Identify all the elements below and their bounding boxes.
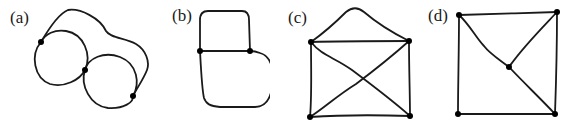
graph-d-left-edge [458, 15, 459, 114]
graph-c-vertex-top-left [308, 39, 314, 45]
graph-a-vertex-3 [130, 93, 136, 99]
graph-b-vertex-2 [247, 48, 253, 54]
graph-c-vertex-top-right [406, 38, 412, 44]
graph-c-top-arc [311, 8, 409, 42]
graph-b-vertex-1 [197, 48, 203, 54]
panel-a: (a) [0, 0, 150, 124]
graph-b-top-face [200, 11, 250, 51]
graph-d-vertex-top-left [456, 12, 462, 18]
graph-c-diagonal-2 [310, 41, 409, 117]
graph-c [280, 0, 425, 124]
graph-a-right-loop [84, 55, 137, 108]
panel-c: (c) [280, 0, 425, 124]
graph-d-edge-center-bottomright [509, 67, 555, 114]
graph-c-left-edge [310, 42, 311, 117]
graph-d-edge-center-topleft [459, 15, 509, 67]
graph-d [420, 0, 562, 124]
graph-a-vertex-2 [82, 67, 88, 73]
graph-d-top-edge [459, 12, 557, 15]
panel-b: (b) [150, 0, 270, 124]
panel-d: (d) [420, 0, 562, 124]
graph-d-edge-center-topright [509, 12, 557, 67]
graph-c-right-edge [409, 41, 410, 116]
graph-c-top-edge [311, 41, 409, 42]
graph-a [0, 0, 150, 124]
graph-d-right-edge [555, 12, 557, 114]
graph-d-vertex-bottom-left [455, 111, 461, 117]
graph-a-vertex-1 [38, 39, 44, 45]
graph-a-outer-edge [41, 10, 148, 96]
graph-d-vertex-center [506, 64, 512, 70]
graph-c-bottom-edge [310, 115, 410, 117]
graph-d-vertex-bottom-right [552, 111, 558, 117]
graph-c-vertex-bottom-right [407, 113, 413, 119]
graph-d-vertex-top-right [554, 9, 560, 15]
graph-c-vertex-bottom-left [307, 114, 313, 120]
graph-b [150, 0, 270, 124]
graph-b-bottom-face [200, 51, 270, 107]
